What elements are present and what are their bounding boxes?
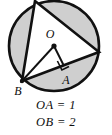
caption-oa: OA = 1 (0, 97, 112, 114)
caption-block: OA = 1 OB = 2 (0, 97, 112, 131)
label-point-b: B (14, 84, 22, 98)
geometry-figure: O A B OA = 1 OB = 2 (0, 0, 112, 135)
center-point-dot (51, 43, 56, 48)
label-point-a: A (61, 73, 70, 87)
caption-ob: OB = 2 (0, 114, 112, 131)
label-point-o: O (46, 27, 55, 41)
point-b-dot (20, 79, 24, 83)
